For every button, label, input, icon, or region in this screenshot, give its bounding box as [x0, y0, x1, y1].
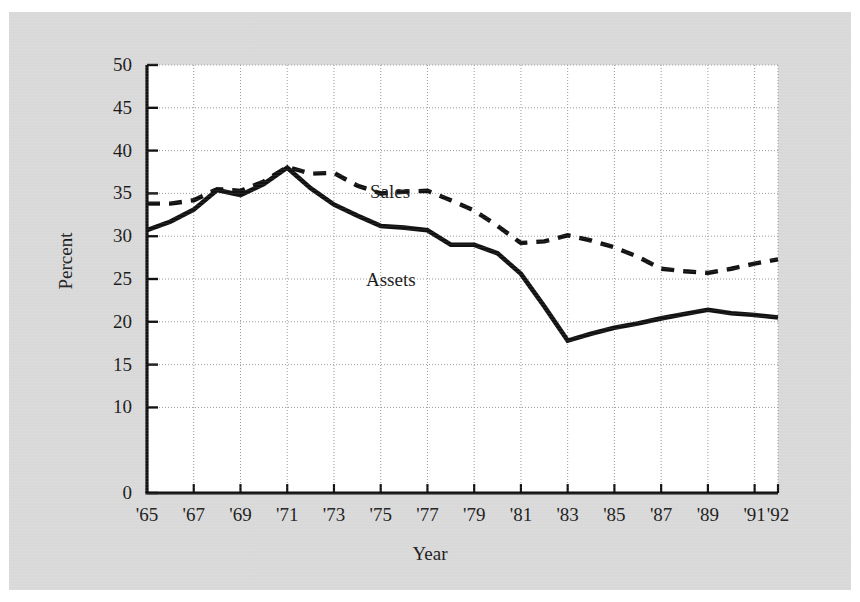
series-label-sales: Sales — [370, 181, 410, 203]
x-tick-label: '69 — [214, 505, 266, 524]
y-tick-label: 30 — [86, 226, 132, 245]
y-tick-label: 20 — [86, 312, 132, 331]
gridlines — [147, 65, 778, 493]
x-tick-label: '73 — [308, 505, 360, 524]
y-tick-label: 0 — [86, 483, 132, 502]
series-line-sales — [147, 167, 778, 273]
y-tick-label: 45 — [86, 98, 132, 117]
y-tick-label: 40 — [86, 141, 132, 160]
y-tick-label: 35 — [86, 183, 132, 202]
x-axis-title: Year — [0, 543, 860, 565]
x-tick-label: '79 — [448, 505, 500, 524]
x-tick-label: '83 — [542, 505, 594, 524]
x-tick-label: '89 — [682, 505, 734, 524]
chart-figure: 0101520253035404550 '65'67'69'71'73'75'7… — [0, 0, 860, 602]
y-axis-title: Percent — [55, 191, 77, 331]
series-label-assets: Assets — [366, 269, 416, 291]
x-tick-label: '71 — [261, 505, 313, 524]
x-tick-label: '92 — [752, 505, 804, 524]
y-tick-label: 15 — [86, 355, 132, 374]
y-tick-label: 50 — [86, 55, 132, 74]
y-tick-label: 10 — [86, 397, 132, 416]
x-tick-label: '77 — [401, 505, 453, 524]
x-tick-label: '65 — [121, 505, 173, 524]
x-tick-label: '81 — [495, 505, 547, 524]
x-tick-label: '85 — [588, 505, 640, 524]
x-tick-label: '67 — [168, 505, 220, 524]
x-tick-label: '87 — [635, 505, 687, 524]
y-tick-label: 25 — [86, 269, 132, 288]
x-tick-label: '75 — [355, 505, 407, 524]
